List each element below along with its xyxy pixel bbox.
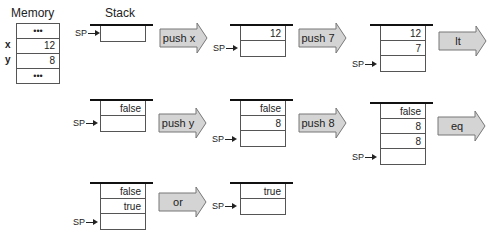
pointer-arrow-icon [225, 139, 233, 140]
stack-cell: false [241, 101, 285, 116]
stack-cell [241, 131, 285, 146]
stack-cell: 12 [241, 26, 285, 41]
stack-cell: false [381, 104, 425, 119]
stack-pointer: SP [213, 43, 234, 53]
stack-pointer: SP [75, 28, 96, 38]
stack-cell: 12 [381, 26, 425, 41]
stack-pointer: SP [73, 217, 94, 227]
stack-cell: false [101, 101, 145, 116]
stack-pointer: SP [352, 59, 373, 69]
var-label-x: x [5, 39, 11, 50]
memory-cell-y: 8 [17, 54, 59, 69]
op-arrow-or: or [158, 186, 208, 218]
op-label: push x [159, 22, 199, 54]
var-label-y: y [5, 54, 11, 65]
pointer-arrow-icon [88, 33, 96, 34]
stack-pointer: SP [212, 201, 233, 211]
memory-title: Memory [11, 6, 54, 20]
op-arrow-push-y: push y [158, 107, 208, 139]
op-label: push 8 [298, 107, 338, 139]
op-arrow-push-8: push 8 [298, 107, 348, 139]
pointer-arrow-icon [226, 48, 234, 49]
op-label: push 7 [298, 22, 338, 54]
stack-cell: true [241, 184, 285, 199]
stack-cell: 8 [241, 116, 285, 131]
stack-cell: 8 [381, 134, 425, 149]
pointer-arrow-icon [86, 222, 94, 223]
op-arrow-push-x: push x [159, 22, 209, 54]
stack-pointer: SP [352, 152, 373, 162]
op-arrow-eq: eq [437, 110, 487, 142]
memory-cell: ••• [17, 69, 59, 83]
stack-cell [241, 199, 285, 214]
op-label: lt [438, 25, 478, 57]
stack-cell [381, 149, 425, 164]
stack-title: Stack [105, 6, 135, 20]
memory-cell: ••• [17, 24, 59, 39]
stack-cell: 8 [381, 119, 425, 134]
op-label: eq [437, 110, 477, 142]
op-label: push y [158, 107, 198, 139]
stack-pointer: SP [212, 134, 233, 144]
stack-cell: false [101, 184, 145, 199]
stack-cell [241, 41, 285, 56]
pointer-arrow-icon [225, 206, 233, 207]
memory-table: ••• 12 8 ••• [16, 23, 60, 84]
stack-cell: 7 [381, 41, 425, 56]
pointer-arrow-icon [365, 64, 373, 65]
stack-cell: true [101, 199, 145, 214]
pointer-arrow-icon [365, 157, 373, 158]
stack-cell [101, 214, 145, 229]
op-label: or [158, 186, 198, 218]
memory-cell-x: 12 [17, 39, 59, 54]
pointer-arrow-icon [86, 123, 94, 124]
stack-pointer: SP [73, 118, 94, 128]
stack-cell [101, 26, 145, 41]
stack-cell [381, 56, 425, 71]
op-arrow-lt: lt [438, 25, 488, 57]
op-arrow-push-7: push 7 [298, 22, 348, 54]
stack-cell [101, 116, 145, 131]
